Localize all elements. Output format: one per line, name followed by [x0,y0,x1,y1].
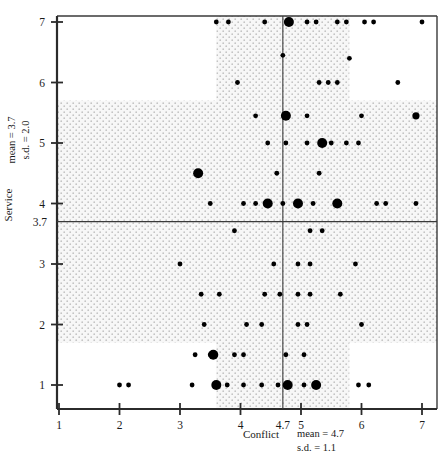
data-point [274,171,279,176]
data-point [362,20,367,25]
data-point [347,56,352,61]
x-axis-ticks: 12345674.7 [56,403,425,431]
data-point [314,20,319,25]
data-point [356,141,361,146]
data-point [296,262,301,267]
data-point [305,113,310,118]
data-point [283,141,288,146]
data-point [208,350,218,360]
data-point [412,112,419,119]
data-point [190,383,195,388]
data-point [235,80,240,85]
x-tick-label: 1 [56,419,62,431]
data-point [284,17,294,27]
data-point [263,199,273,209]
data-point [308,262,313,267]
y-tick-label: 5 [39,137,45,149]
data-point [414,201,419,206]
data-point [317,138,327,148]
data-point [371,20,376,25]
data-point [117,383,122,388]
y-tick-label: 7 [39,16,45,28]
data-point [259,383,264,388]
data-point [296,322,301,327]
data-point [283,380,293,390]
data-point [253,113,258,118]
data-point [208,201,213,206]
data-point [126,383,131,388]
data-point [305,20,310,25]
data-point [262,20,267,25]
shaded-sd-bands [57,16,437,409]
data-point [353,262,358,267]
data-point [308,228,313,233]
y-tick-label: 4 [39,198,45,210]
data-point [259,322,264,327]
data-point [374,201,379,206]
data-point [420,20,425,25]
data-point [244,322,249,327]
data-point [383,201,388,206]
data-point [311,380,321,390]
y-mean-tick-label: 3.7 [33,216,48,228]
data-point [359,322,364,327]
data-point [283,352,288,357]
data-point [280,201,285,206]
data-point [276,383,281,388]
data-point [305,141,310,146]
data-point [335,20,340,25]
x-mean-statistic: mean = 4.7 [297,428,344,439]
data-point [241,383,246,388]
x-axis-label: Conflict [243,428,279,440]
data-point [293,199,303,209]
data-point [296,292,301,297]
data-point [253,201,258,206]
data-point [277,292,282,297]
y-tick-label: 3 [39,258,45,270]
data-point [202,322,207,327]
data-point [217,292,222,297]
data-point [225,383,230,388]
data-point [326,80,331,85]
data-point [320,228,325,233]
y-tick-label: 1 [39,379,45,391]
data-point [302,352,307,357]
x-tick-label: 3 [177,419,183,431]
data-point [241,201,246,206]
data-point [359,113,364,118]
y-mean-statistic: mean = 3.7 [6,116,17,163]
data-point [241,352,246,357]
data-point [265,141,270,146]
data-point [193,352,198,357]
data-point [311,201,316,206]
scatter-plot-figure: 12345674.7 12345673.7 Conflict Service m… [0,0,446,460]
data-point [302,383,307,388]
data-point [308,292,313,297]
x-sd-statistic: s.d. = 1.1 [297,442,336,453]
data-point [344,20,349,25]
y-axis-label: Service [2,188,14,221]
data-point [317,80,322,85]
data-point [335,80,340,85]
data-point [317,171,322,176]
data-point [281,111,291,121]
x-tick-label: 6 [359,419,365,431]
data-point [344,141,349,146]
data-point [211,380,221,390]
x-tick-label: 2 [117,419,123,431]
data-point [271,262,276,267]
data-point [178,262,183,267]
data-point [193,168,203,178]
data-point [232,228,237,233]
data-point [199,292,204,297]
data-point [332,199,342,209]
data-point [329,141,334,146]
data-point [395,80,400,85]
y-sd-statistic: s.d. = 2.0 [20,121,31,160]
data-point [214,20,219,25]
data-point [262,292,267,297]
data-point [232,352,237,357]
y-tick-label: 2 [39,319,45,331]
data-point [280,53,285,58]
data-point [338,292,343,297]
